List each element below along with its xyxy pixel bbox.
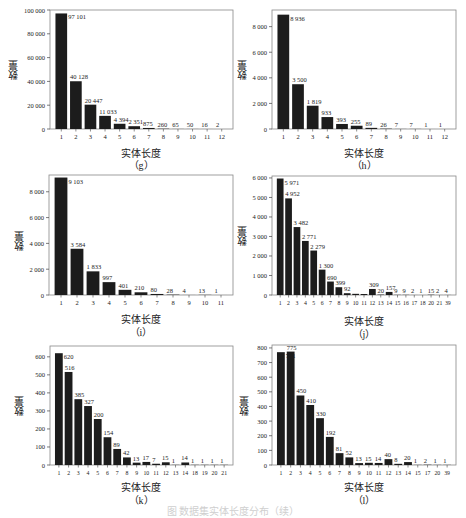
x-tick-label: 4: [304, 300, 307, 306]
y-tick-label: 60 000: [27, 54, 45, 61]
value-label: 13: [133, 455, 140, 462]
plot-frame: [272, 10, 456, 129]
x-tick-label: 14: [182, 470, 188, 476]
x-tick-label: 3: [299, 470, 302, 476]
value-label: 2: [436, 287, 439, 294]
y-tick-label: 800: [257, 344, 267, 351]
x-tick-label: 10: [202, 299, 209, 306]
bar: [336, 453, 344, 465]
y-tick-label: 4 000: [252, 74, 267, 81]
value-label: 2: [411, 287, 414, 294]
x-tick-label: 9: [358, 470, 361, 476]
value-label: 9 103: [68, 178, 83, 185]
value-label: 81: [336, 445, 343, 452]
value-label: 3 482: [294, 219, 309, 226]
value-label: 410: [306, 397, 316, 404]
value-label: 80: [151, 286, 158, 293]
x-tick-label: 7: [116, 470, 119, 476]
x-tick-label: 21: [437, 300, 443, 306]
value-label: 2 771: [302, 233, 317, 240]
x-tick-label: 8: [125, 470, 128, 476]
value-label: 1 833: [87, 263, 102, 270]
x-tick-label: 4: [326, 133, 330, 140]
x-tick-label: 20: [428, 300, 434, 306]
value-label: 7: [409, 121, 413, 128]
y-tick-label: 0: [264, 292, 267, 299]
x-tick-label: 10: [353, 300, 359, 306]
bar: [113, 449, 121, 465]
bar: [135, 292, 148, 295]
value-label: 2: [216, 121, 219, 128]
value-label: 20: [404, 454, 411, 461]
y-tick-label: 6 000: [252, 49, 267, 56]
panel-label-i: （i）: [91, 324, 191, 339]
value-label: 154: [104, 429, 115, 436]
x-tick-label: 39: [444, 470, 450, 476]
x-tick-label: 1: [59, 299, 62, 306]
x-tick-label: 1: [282, 133, 285, 140]
bar: [285, 198, 292, 295]
bar: [84, 406, 92, 465]
value-label: 1 300: [319, 262, 334, 269]
bar: [55, 178, 68, 295]
y-tick-label: 500: [35, 371, 45, 378]
y-tick-label: 300: [257, 418, 267, 425]
value-label: 1: [191, 457, 194, 464]
x-tick-label: 7: [147, 133, 151, 140]
bar: [321, 117, 333, 129]
bar: [65, 372, 73, 465]
y-tick-label: 6 000: [29, 214, 44, 221]
value-label: 200: [94, 411, 104, 418]
x-tick-label: 7: [155, 299, 159, 306]
x-tick-label: 8: [162, 133, 165, 140]
value-label: 15: [365, 455, 372, 462]
bar: [277, 352, 285, 465]
x-tick-label: 4: [107, 299, 111, 306]
x-tick-label: 7: [338, 470, 341, 476]
x-tick-label: 10: [143, 470, 149, 476]
x-tick-label: 16: [403, 300, 409, 306]
y-tick-label: 8 000: [252, 23, 267, 30]
x-tick-label: 21: [221, 470, 227, 476]
x-tick-label: 5: [319, 470, 322, 476]
x-tick-label: 11: [361, 300, 367, 306]
y-tick-label: 700: [257, 359, 267, 366]
value-label: 997: [103, 274, 114, 281]
y-tick-label: 600: [257, 374, 267, 381]
x-tick-label: 3: [91, 299, 94, 306]
y-tick-label: 100: [35, 443, 45, 450]
value-label: 52: [345, 449, 352, 456]
value-label: 8 936: [290, 15, 305, 22]
bar: [287, 352, 295, 465]
panel-label-j: （j）: [314, 326, 414, 341]
x-tick-label: 2: [296, 133, 299, 140]
value-label: 1: [439, 121, 442, 128]
value-label: 1: [433, 457, 436, 464]
x-tick-label: 2: [67, 470, 70, 476]
x-tick-label: 4: [309, 470, 312, 476]
y-tick-label: 2 000: [29, 266, 44, 273]
value-label: 4: [444, 287, 448, 294]
value-label: 771: [286, 352, 296, 359]
value-label: 5 971: [285, 179, 300, 186]
x-tick-label: 9: [135, 470, 138, 476]
bar: [133, 463, 141, 465]
y-tick-label: 3 000: [252, 233, 267, 240]
bar: [181, 462, 189, 465]
value-label: 210: [135, 284, 145, 291]
x-tick-label: 6: [106, 470, 109, 476]
value-label: 1: [211, 457, 214, 464]
y-tick-label: 8 000: [29, 188, 44, 195]
value-label: 26: [380, 121, 387, 128]
value-label: 690: [327, 274, 337, 281]
bar: [352, 294, 359, 295]
bar: [310, 251, 317, 295]
bar: [55, 353, 63, 465]
value-label: 14: [375, 455, 382, 462]
y-tick-label: 6 000: [252, 174, 267, 181]
plot-frame: [272, 345, 456, 465]
x-tick-label: 17: [411, 300, 417, 306]
